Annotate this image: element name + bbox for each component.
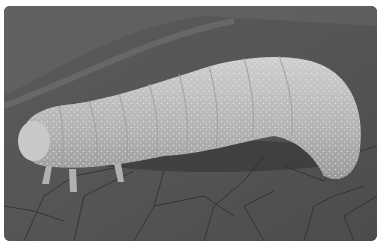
caterpillar-photo — [4, 6, 377, 241]
photo-illustration — [4, 6, 377, 241]
caterpillar-head — [18, 121, 50, 161]
